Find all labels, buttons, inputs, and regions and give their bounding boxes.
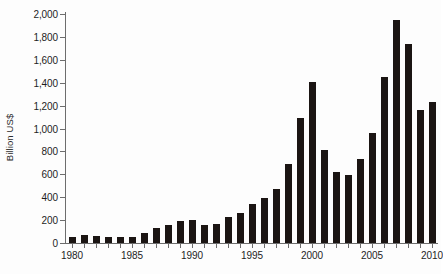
bar: [153, 228, 160, 243]
bar: [429, 102, 436, 243]
x-axis-tick: [132, 244, 133, 248]
x-axis-tick-label: 1995: [241, 250, 263, 261]
bar: [417, 110, 424, 243]
plot-area: [66, 14, 438, 243]
x-axis-tick: [72, 244, 73, 248]
bar: [393, 20, 400, 243]
x-axis-tick: [324, 244, 325, 248]
bar: [381, 77, 388, 243]
bar: [189, 220, 196, 243]
bar: [117, 237, 124, 243]
y-axis-tick-label: 1,800: [12, 31, 58, 42]
y-axis-tick-label: 600: [12, 169, 58, 180]
bar: [345, 175, 352, 243]
bar: [129, 237, 136, 243]
bar: [357, 159, 364, 243]
x-axis-tick: [264, 244, 265, 248]
y-axis-tick-label: 1,600: [12, 54, 58, 65]
bar: [69, 237, 76, 243]
x-axis-tick: [108, 244, 109, 248]
x-axis-tick: [384, 244, 385, 248]
bar: [285, 164, 292, 243]
x-axis-tick: [312, 244, 313, 248]
x-axis-tick-label: 1985: [121, 250, 143, 261]
y-axis-tick-label: 1,200: [12, 100, 58, 111]
y-axis-labels: 02004006008001,0001,2001,4001,6001,8002,…: [8, 0, 58, 274]
bar: [369, 133, 376, 243]
bar: [141, 233, 148, 243]
x-axis-tick: [216, 244, 217, 248]
bar: [261, 198, 268, 243]
x-axis-tick: [204, 244, 205, 248]
bar: [273, 189, 280, 243]
chart-title: [0, 0, 441, 5]
bar: [105, 237, 112, 243]
x-axis-tick: [408, 244, 409, 248]
x-axis-tick: [360, 244, 361, 248]
x-axis-tick: [120, 244, 121, 248]
x-axis-tick: [192, 244, 193, 248]
x-axis-tick: [84, 244, 85, 248]
x-axis-tick: [348, 244, 349, 248]
bar: [225, 217, 232, 243]
y-axis-tick-label: 200: [12, 215, 58, 226]
x-axis-tick: [252, 244, 253, 248]
x-axis-tick: [372, 244, 373, 248]
x-axis-tick: [336, 244, 337, 248]
x-axis-tick-label: 2000: [301, 250, 323, 261]
x-axis-tick: [288, 244, 289, 248]
bar: [81, 235, 88, 243]
x-axis-line: [62, 243, 438, 244]
x-axis-tick: [156, 244, 157, 248]
bar: [237, 213, 244, 243]
bar: [213, 224, 220, 243]
bar: [177, 221, 184, 243]
bar: [405, 44, 412, 243]
x-axis-tick: [420, 244, 421, 248]
y-axis-tick-label: 2,000: [12, 9, 58, 20]
bar: [93, 236, 100, 243]
x-axis-tick: [96, 244, 97, 248]
x-axis-tick: [300, 244, 301, 248]
y-axis-tick-label: 400: [12, 192, 58, 203]
x-axis-tick: [228, 244, 229, 248]
bar: [165, 225, 172, 243]
bar: [297, 118, 304, 243]
y-axis-tick-label: 0: [12, 238, 58, 249]
x-axis-tick-label: 1990: [181, 250, 203, 261]
x-axis-tick: [144, 244, 145, 248]
x-axis-tick-label: 2010: [421, 250, 443, 261]
x-axis-tick: [396, 244, 397, 248]
bar: [321, 150, 328, 243]
x-axis-tick: [432, 244, 433, 248]
x-axis-tick-label: 1980: [61, 250, 83, 261]
bar: [249, 204, 256, 243]
y-axis-tick-label: 800: [12, 146, 58, 157]
bar: [201, 225, 208, 243]
bar: [333, 172, 340, 243]
y-axis-tick-label: 1,000: [12, 123, 58, 134]
x-axis-tick: [180, 244, 181, 248]
x-axis-tick: [240, 244, 241, 248]
bar: [309, 82, 316, 243]
x-axis-tick-label: 2005: [361, 250, 383, 261]
y-axis-tick-label: 1,400: [12, 77, 58, 88]
x-axis-tick: [276, 244, 277, 248]
x-axis-tick: [168, 244, 169, 248]
